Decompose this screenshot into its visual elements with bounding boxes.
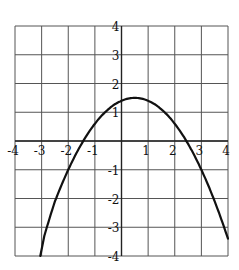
y-tick-label: 2: [112, 78, 120, 92]
y-tick-label: 1: [112, 106, 120, 120]
x-tick-label: 3: [196, 144, 204, 158]
y-tick-label: -3: [108, 221, 120, 235]
x-tick-label: 4: [222, 144, 230, 158]
x-tick-label: 2: [169, 144, 177, 158]
x-tick-label: -4: [7, 144, 19, 158]
axes: [15, 26, 228, 256]
x-tick-label: 1: [142, 144, 150, 158]
y-tick-label: -2: [108, 193, 120, 207]
y-tick-label: -1: [108, 164, 120, 178]
y-tick-label: 3: [112, 49, 120, 63]
y-tick-label: 4: [112, 20, 120, 34]
x-tick-label: -2: [60, 144, 72, 158]
x-tick-label: -1: [87, 144, 99, 158]
y-tick-labels: 4321-1-2-3-4: [108, 20, 120, 264]
x-tick-labels: -4-3-2-11234: [7, 144, 230, 158]
y-tick-label: -4: [108, 250, 120, 264]
coordinate-plane-chart: -4-3-2-11234 4321-1-2-3-4: [0, 0, 239, 270]
x-tick-label: -3: [34, 144, 46, 158]
